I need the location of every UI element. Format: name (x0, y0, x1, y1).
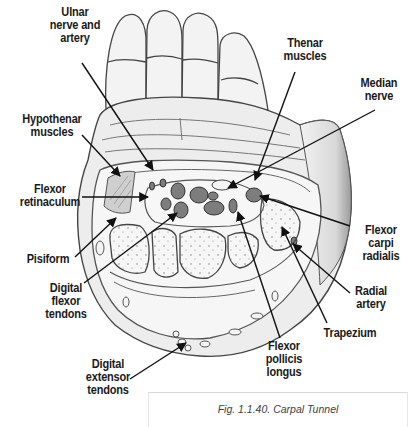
label-flexor-carpi-radialis: Flexor carpi radialis (355, 224, 406, 263)
label-thenar-muscles: Thenar muscles (274, 37, 336, 63)
label-median-nerve: Median nerve (352, 77, 407, 103)
label-flexor-retinaculum: Flexor retinaculum (17, 183, 84, 209)
label-digital-extensor-tendons: Digital extensor tendons (80, 358, 136, 397)
hypothenar-region (104, 171, 135, 213)
median-nerve-shape (212, 180, 232, 190)
label-pisiform: Pisiform (23, 253, 72, 266)
finger-4 (218, 33, 268, 110)
fingers (106, 11, 268, 110)
label-radial-artery: Radial artery (348, 285, 394, 311)
figure-caption: Fig. 1.1.40. Carpal Tunnel (149, 403, 407, 415)
label-digital-flexor-tendons: Digital flexor tendons (41, 282, 90, 321)
label-ulnar-nerve-artery: Ulnar nerve and artery (44, 6, 106, 45)
label-trapezium: Trapezium (322, 327, 378, 340)
label-flexor-pollicis-longus: Flexor pollicis longus (258, 340, 311, 379)
finger-3 (182, 13, 218, 108)
figure-caption-box: Fig. 1.1.40. Carpal Tunnel (148, 392, 408, 427)
finger-1 (106, 14, 146, 110)
label-hypothenar-muscles: Hypothenar muscles (17, 113, 87, 139)
